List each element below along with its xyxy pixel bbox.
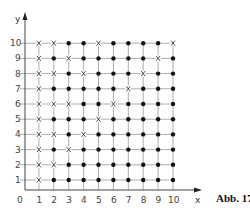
cross-marker-icon xyxy=(51,71,56,77)
dot-marker-icon xyxy=(171,56,175,60)
cross-marker-icon xyxy=(141,71,146,77)
y-tick-label: 1 xyxy=(15,175,21,185)
dot-marker-icon xyxy=(141,87,145,91)
cross-marker-icon xyxy=(96,116,101,122)
y-tick-label: 8 xyxy=(15,69,21,79)
dot-marker-icon xyxy=(81,87,85,91)
x-axis-label: x xyxy=(195,195,201,205)
dot-marker-icon xyxy=(111,163,115,167)
dot-marker-icon xyxy=(81,102,85,106)
dot-marker-icon xyxy=(126,147,130,151)
dot-marker-icon xyxy=(96,87,100,91)
dot-marker-icon xyxy=(81,147,85,151)
dot-marker-icon xyxy=(156,147,160,151)
cross-marker-icon xyxy=(66,101,71,107)
dot-marker-icon xyxy=(141,178,145,182)
dot-marker-icon xyxy=(111,178,115,182)
y-tick-label: 3 xyxy=(15,145,21,155)
dot-marker-icon xyxy=(156,163,160,167)
y-axis-arrow-icon xyxy=(23,12,28,20)
dot-marker-icon xyxy=(52,178,56,182)
y-tick-label: 4 xyxy=(15,129,21,139)
dot-marker-icon xyxy=(52,117,56,121)
dot-marker-icon xyxy=(81,178,85,182)
dot-marker-icon xyxy=(141,163,145,167)
cross-marker-icon xyxy=(36,177,41,183)
dot-marker-icon xyxy=(171,132,175,136)
x-tick-label: 6 xyxy=(111,195,117,205)
dot-marker-icon xyxy=(126,71,130,75)
cross-marker-icon xyxy=(36,40,41,46)
origin-label: 0 xyxy=(17,195,23,205)
cross-marker-icon xyxy=(51,101,56,107)
dot-marker-icon xyxy=(126,132,130,136)
cross-marker-icon xyxy=(156,55,161,61)
dot-marker-icon xyxy=(156,102,160,106)
dot-marker-icon xyxy=(126,102,130,106)
cross-marker-icon xyxy=(36,101,41,107)
dot-marker-icon xyxy=(126,117,130,121)
dot-marker-icon xyxy=(111,71,115,75)
dot-marker-icon xyxy=(171,102,175,106)
cross-marker-icon xyxy=(111,101,116,107)
dot-marker-icon xyxy=(111,147,115,151)
dot-marker-icon xyxy=(156,87,160,91)
dot-marker-icon xyxy=(111,41,115,45)
figure-caption: Abb. 17 xyxy=(216,192,250,204)
x-tick-label: 7 xyxy=(126,195,132,205)
dot-marker-icon xyxy=(81,41,85,45)
x-tick-label: 3 xyxy=(66,195,72,205)
cross-marker-icon xyxy=(36,55,41,61)
dot-marker-icon xyxy=(81,56,85,60)
dot-marker-icon xyxy=(156,117,160,121)
dot-marker-icon xyxy=(141,41,145,45)
y-tick-label: 9 xyxy=(15,53,21,63)
y-axis-label: y xyxy=(15,14,21,24)
dot-marker-icon xyxy=(81,163,85,167)
cross-marker-icon xyxy=(171,40,176,46)
markers xyxy=(36,40,175,183)
dot-marker-icon xyxy=(156,132,160,136)
dot-marker-icon xyxy=(52,87,56,91)
dot-marker-icon xyxy=(171,87,175,91)
dot-marker-icon xyxy=(141,147,145,151)
x-tick-label: 2 xyxy=(51,195,57,205)
dot-marker-icon xyxy=(171,71,175,75)
dot-marker-icon xyxy=(67,41,71,45)
dot-marker-icon xyxy=(111,117,115,121)
cross-marker-icon xyxy=(36,116,41,122)
y-tick-label: 10 xyxy=(10,38,22,48)
cross-marker-icon xyxy=(81,131,86,137)
dot-marker-icon xyxy=(96,163,100,167)
dot-marker-icon xyxy=(171,178,175,182)
cross-marker-icon xyxy=(36,71,41,77)
lattice-diagram: y x 0 1234567891012345678910 xyxy=(0,0,250,219)
x-tick-label: 4 xyxy=(81,195,87,205)
dot-marker-icon xyxy=(156,41,160,45)
dot-marker-icon xyxy=(96,71,100,75)
dot-marker-icon xyxy=(171,117,175,121)
dot-marker-icon xyxy=(81,117,85,121)
dot-marker-icon xyxy=(156,178,160,182)
dot-marker-icon xyxy=(96,102,100,106)
dot-marker-icon xyxy=(171,163,175,167)
y-tick-label: 2 xyxy=(15,160,21,170)
dot-marker-icon xyxy=(126,56,130,60)
dot-marker-icon xyxy=(141,56,145,60)
cross-marker-icon xyxy=(36,131,41,137)
dot-marker-icon xyxy=(67,87,71,91)
y-tick-label: 5 xyxy=(15,114,21,124)
dot-marker-icon xyxy=(126,163,130,167)
cross-marker-icon xyxy=(66,147,71,153)
dot-marker-icon xyxy=(126,178,130,182)
x-tick-label: 1 xyxy=(36,195,42,205)
dot-marker-icon xyxy=(141,102,145,106)
x-tick-label: 10 xyxy=(168,195,180,205)
dot-marker-icon xyxy=(156,71,160,75)
cross-marker-icon xyxy=(51,162,56,168)
dot-marker-icon xyxy=(96,56,100,60)
cross-marker-icon xyxy=(96,40,101,46)
y-tick-label: 7 xyxy=(15,84,21,94)
x-tick-label: 5 xyxy=(96,195,102,205)
cross-marker-icon xyxy=(51,131,56,137)
